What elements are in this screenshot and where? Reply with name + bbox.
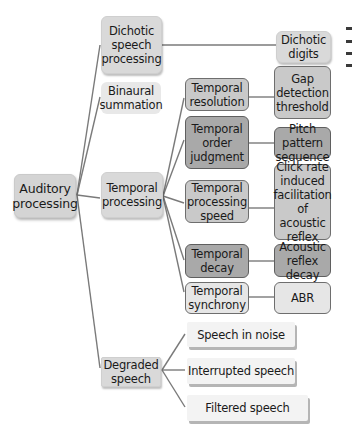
node-label: Speech in noise (197, 328, 285, 342)
node-binaural-summation: Binaural summation (101, 82, 161, 114)
node-temporal-decay: Temporal decay (185, 244, 249, 278)
node-label: Binaural summation (100, 84, 163, 112)
node-interrupted-speech: Interrupted speech (187, 358, 295, 384)
node-abr: ABR (274, 282, 331, 314)
node-label: Auditory processing (12, 181, 77, 211)
node-label: Temporal processing (102, 181, 162, 209)
node-temporal-order-judgment: Temporal order judgment (185, 116, 249, 169)
edge-text-fragment (346, 40, 352, 43)
node-temporal-synchrony: Temporal synchrony (185, 282, 249, 314)
node-label: Dichotic speech processing (102, 24, 162, 66)
node-label: Acoustic reflex decay (275, 240, 330, 282)
node-temporal-processing: Temporal processing (101, 172, 163, 218)
node-auditory-processing: Auditory processing (14, 174, 76, 218)
node-label: Gap detection threshold (275, 72, 330, 114)
node-label: Filtered speech (205, 401, 289, 415)
node-label: Dichotic digits (277, 33, 330, 61)
node-label: Pitch pattern sequence (275, 122, 330, 164)
node-acoustic-reflex-decay: Acoustic reflex decay (274, 244, 331, 277)
node-dichotic-speech-processing: Dichotic speech processing (101, 16, 162, 74)
node-label: Temporal resolution (186, 81, 248, 109)
node-pitch-pattern-sequence: Pitch pattern sequence (274, 127, 331, 159)
node-label: Temporal decay (186, 247, 248, 275)
node-label: Click rate induced facilitation of acous… (273, 160, 331, 244)
node-temporal-resolution: Temporal resolution (185, 78, 249, 111)
edge-text-fragment (346, 27, 352, 30)
node-dichotic-digits: Dichotic digits (276, 31, 331, 63)
node-temporal-processing-speed: Temporal processing speed (185, 180, 249, 223)
node-click-rate-facilitation: Click rate induced facilitation of acous… (274, 164, 331, 240)
node-speech-in-noise: Speech in noise (187, 322, 295, 347)
node-label: Degraded speech (102, 358, 160, 386)
node-degraded-speech: Degraded speech (101, 357, 161, 387)
node-label: ABR (291, 291, 314, 305)
edge-text-fragment (346, 52, 352, 55)
node-label: Temporal order judgment (186, 122, 248, 164)
edge-text-fragment (346, 64, 352, 67)
node-filtered-speech: Filtered speech (187, 395, 308, 421)
node-label: Interrupted speech (188, 364, 294, 378)
node-label: Temporal processing speed (186, 181, 248, 223)
node-label: Temporal synchrony (186, 284, 248, 312)
node-gap-detection-threshold: Gap detection threshold (274, 66, 331, 119)
